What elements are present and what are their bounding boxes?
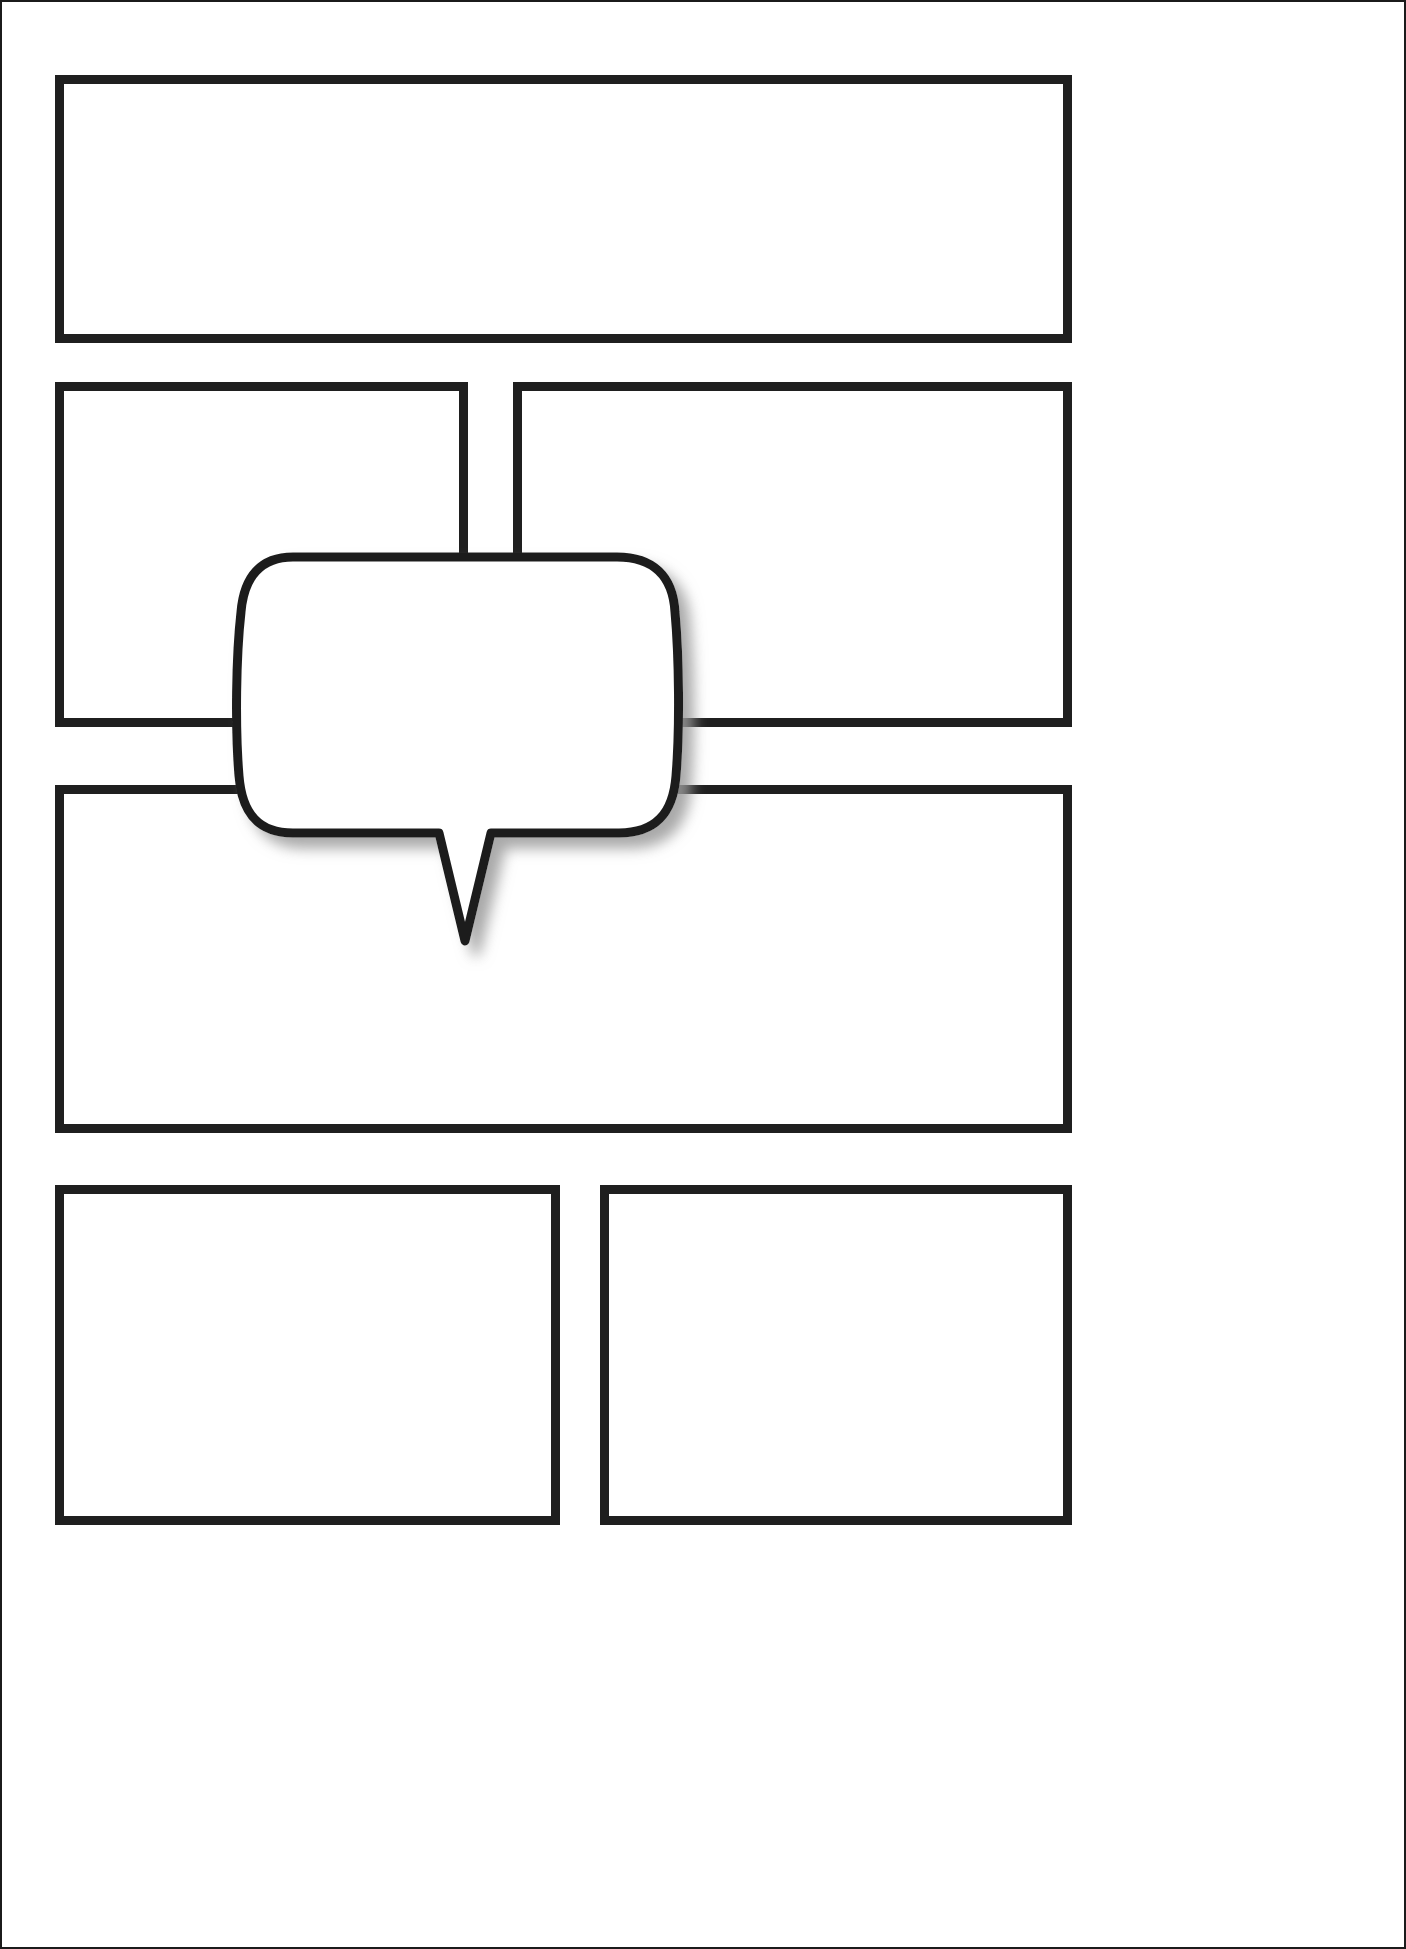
comic-panel-5[interactable]	[55, 1185, 560, 1525]
comic-panel-2[interactable]	[55, 382, 468, 727]
comic-page	[0, 0, 1406, 1949]
comic-panel-4[interactable]	[55, 785, 1072, 1133]
comic-panel-3[interactable]	[513, 382, 1072, 727]
comic-panel-1[interactable]	[55, 75, 1072, 343]
comic-panel-6[interactable]	[600, 1185, 1072, 1525]
